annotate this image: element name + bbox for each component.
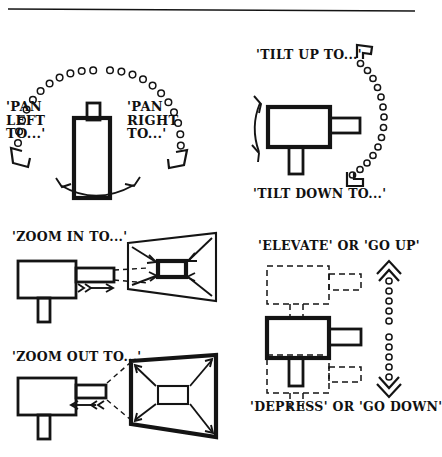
camera-side-view-zoom-out [18, 378, 106, 439]
zoom-in-label: 'ZOOM IN TO...' [12, 231, 127, 244]
zoom-in-panel [18, 233, 216, 322]
pan-right-label: 'PAN RIGHT TO...' [127, 100, 178, 141]
camera-side-view-tilt [268, 107, 360, 174]
zoom-out-sightlines [107, 362, 131, 420]
zoom-in-direction-arrow-icon [78, 284, 113, 292]
camera-side-view-elevate [267, 318, 361, 386]
zoom-out-direction-arrow-icon [71, 401, 104, 409]
tilt-panel [252, 45, 387, 186]
camera-side-view-zoom-in [18, 261, 114, 322]
ghost-camera-up [267, 266, 361, 320]
elevate-bead-column [386, 278, 392, 380]
tilt-down-label: 'TILT DOWN TO...' [253, 188, 386, 201]
pan-left-label: 'PAN LEFT TO...' [6, 100, 46, 141]
depress-label: 'DEPRESS' OR 'GO DOWN' [250, 401, 442, 414]
zoom-in-frame [128, 233, 216, 301]
zoom-out-frame [131, 355, 216, 437]
camera-top-view [74, 103, 110, 198]
tilt-rotation-arrow-icon [252, 96, 261, 162]
pan-left-arrowhead-icon [11, 148, 30, 167]
pan-right-arrowhead-icon [168, 150, 187, 168]
zoom-out-label: 'ZOOM OUT TO...' [12, 351, 142, 364]
zoom-out-panel [18, 355, 216, 439]
tilt-up-label: 'TILT UP TO...' [256, 49, 362, 62]
top-divider-rule [8, 9, 415, 11]
elevate-depress-panel [267, 261, 401, 409]
elevate-label: 'ELEVATE' OR 'GO UP' [258, 240, 420, 253]
pan-rotation-arrow-icon [56, 177, 140, 196]
